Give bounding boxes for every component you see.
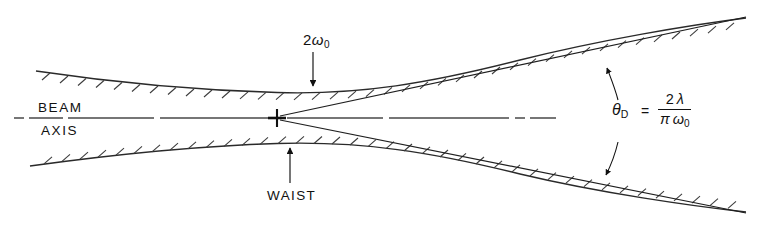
waist-label: WAIST [267,188,316,203]
gaussian-beam-propagation-diagram: BEAM AXIS WAIST 2ω0 θD = 2 λ π ω0 [0,0,784,228]
numerator-coefficient: 2 [666,91,674,107]
spot-size-label: 2ω0 [303,31,330,50]
equals-sign: = [641,103,649,119]
lower-envelope-hatching [44,136,736,208]
spot-size-symbol: ω [312,31,324,48]
divergence-formula-fraction: 2 λ π ω0 [658,92,691,130]
upper-envelope-hatching [42,23,734,100]
divergence-angle-arc [606,68,618,175]
lower-beam-envelope [30,143,746,212]
asymptote-lower [280,120,746,213]
axis-label: AXIS [41,123,78,138]
theta-subscript: D [621,108,629,120]
fraction-bar [658,109,691,110]
beam-label: BEAM [38,100,83,115]
divergence-arc-lower [606,142,618,175]
formula-denominator: π ω0 [658,111,691,130]
denominator-pi: π [660,111,670,127]
formula-numerator: 2 λ [658,92,691,108]
denominator-subscript: 0 [684,118,690,129]
spot-size-prefix: 2 [303,31,312,48]
spot-size-subscript: 0 [324,39,330,50]
numerator-lambda: λ [677,91,684,107]
upper-beam-envelope [36,18,746,93]
divergence-angle-label: θD [612,101,628,120]
denominator-omega: ω [673,111,684,127]
waist-marker [268,109,286,127]
divergence-arc-upper [607,68,618,100]
theta-symbol: θ [612,101,621,118]
